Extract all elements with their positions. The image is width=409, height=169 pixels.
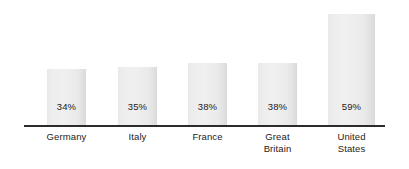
tick-label-germany: Germany [27,131,106,143]
bar-chart: 34% 35% 38% 38% 59% Germany Italy France… [0,0,409,169]
bar-value-germany: 34% [47,102,86,112]
bar-italy: 35% [118,67,157,127]
bar-united-states: 59% [328,14,375,127]
bar-value-united-states: 59% [328,102,375,112]
tick-label-great-britain: Great Britain [238,131,317,154]
bar-value-france: 38% [188,102,227,112]
tick-label-great-britain-line1: Great [238,131,317,143]
tick-label-united-states-line2: States [312,143,391,155]
tick-label-germany-line1: Germany [27,131,106,143]
tick-label-france-line1: France [168,131,247,143]
x-axis-line [24,125,385,127]
tick-label-great-britain-line2: Britain [238,143,317,155]
tick-label-united-states-line1: United [312,131,391,143]
bar-france: 38% [188,63,227,127]
tick-label-united-states: United States [312,131,391,154]
bar-great-britain: 38% [258,63,297,127]
bar-value-great-britain: 38% [258,102,297,112]
tick-label-italy-line1: Italy [98,131,177,143]
x-axis-tick-labels: Germany Italy France Great Britain Unite… [0,131,409,169]
bar-germany: 34% [47,69,86,127]
tick-label-italy: Italy [98,131,177,143]
plot-area: 34% 35% 38% 38% 59% [0,0,409,127]
bar-value-italy: 35% [118,102,157,112]
tick-label-france: France [168,131,247,143]
